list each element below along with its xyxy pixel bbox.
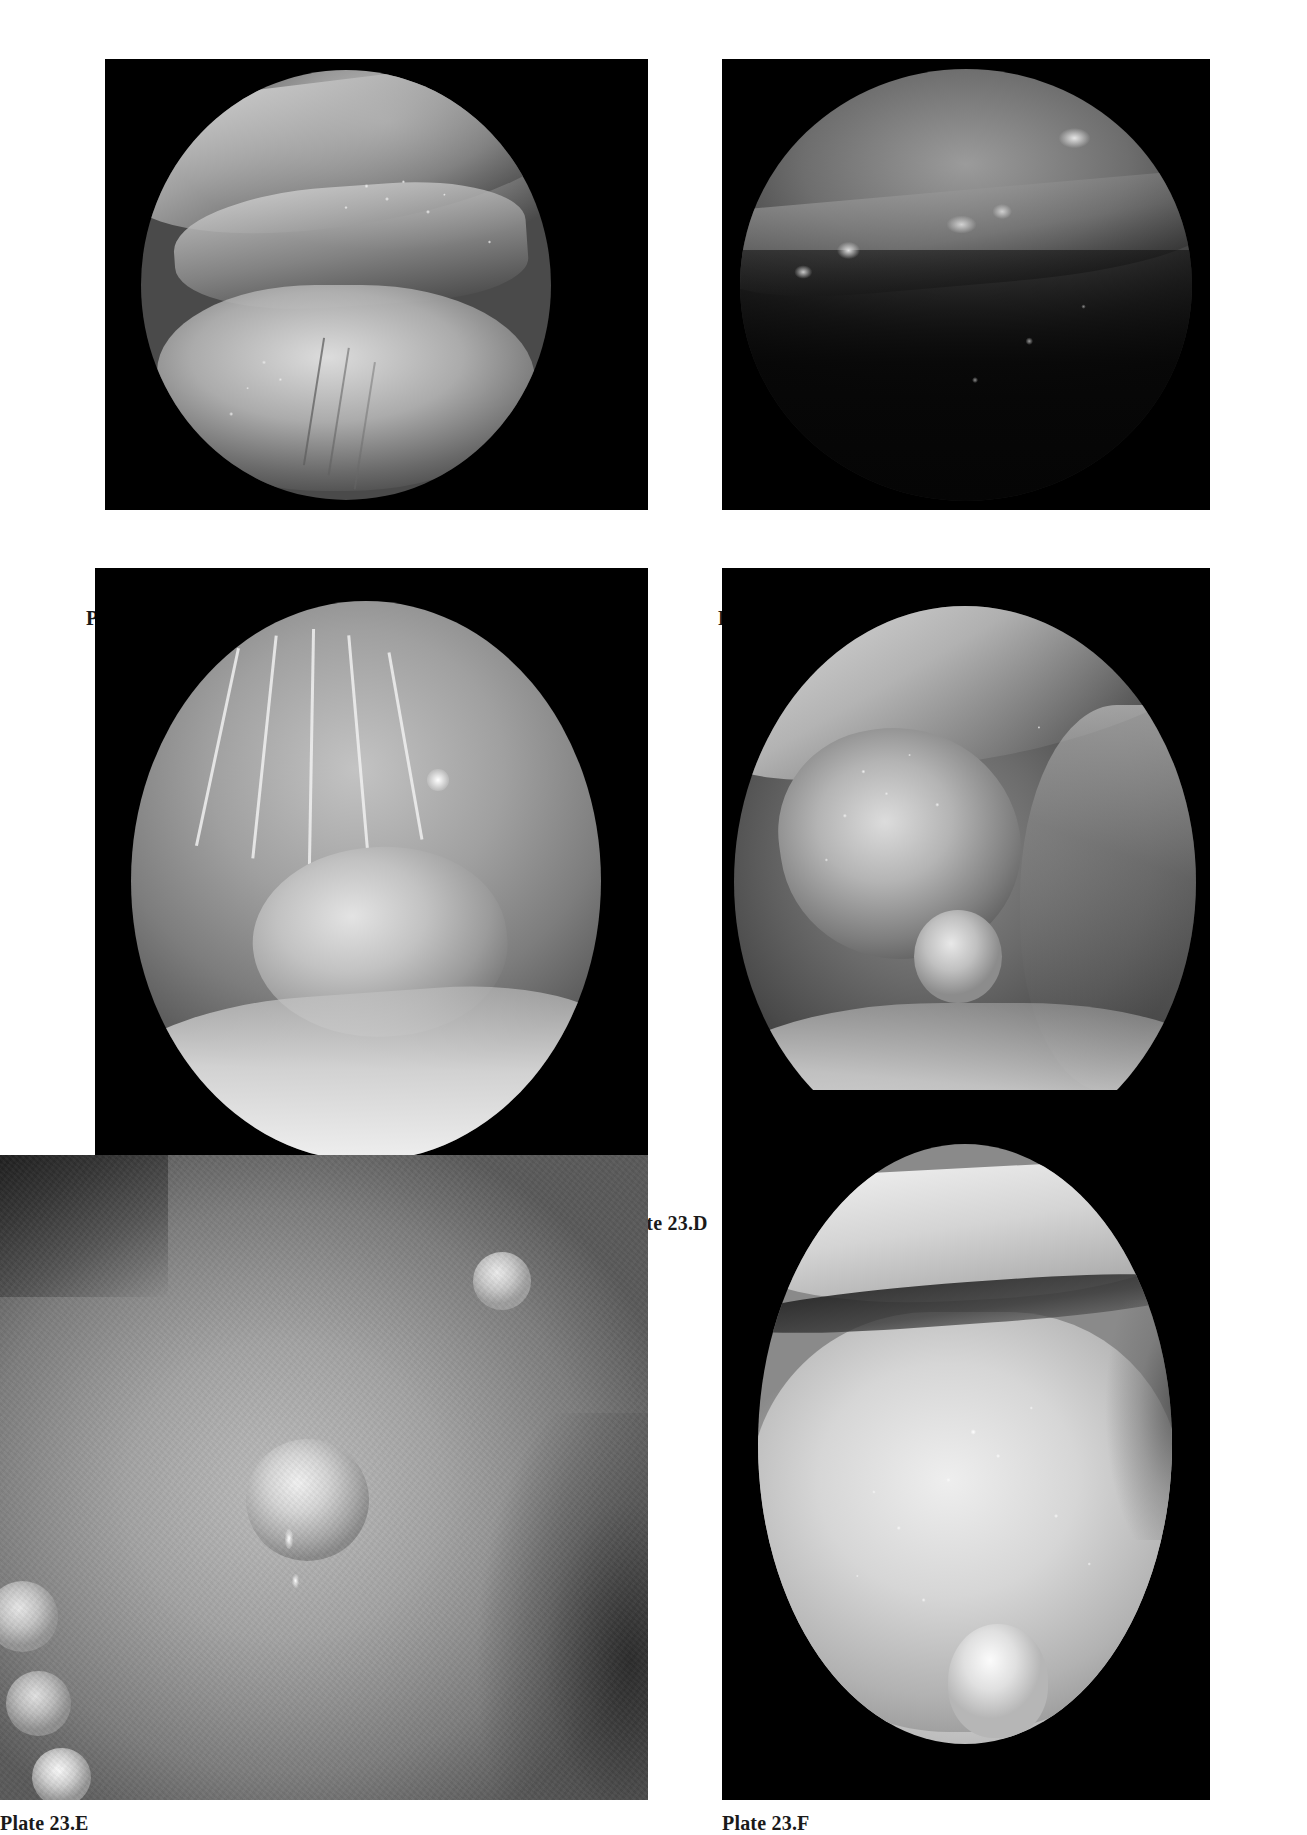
plate-frame-b bbox=[722, 59, 1210, 510]
nodule-spots bbox=[734, 606, 1196, 1158]
plate-image-e bbox=[0, 1155, 648, 1800]
nodule-spots bbox=[758, 1144, 1172, 1744]
plate-frame-f bbox=[722, 1090, 1210, 1800]
plate-image-a bbox=[141, 70, 551, 500]
plaque-spots bbox=[740, 69, 1192, 501]
plate-image-b bbox=[740, 69, 1192, 501]
plate-frame-e bbox=[0, 1155, 648, 1800]
strand-1 bbox=[195, 648, 240, 846]
lower-fold bbox=[131, 975, 601, 1161]
plate-image-c bbox=[131, 601, 601, 1161]
film-grain bbox=[0, 1155, 648, 1800]
plate-image-f bbox=[758, 1144, 1172, 1744]
plate-frame-c bbox=[95, 568, 648, 1195]
strand-2 bbox=[251, 635, 277, 858]
strand-3 bbox=[308, 629, 315, 864]
plate-image-d bbox=[734, 606, 1196, 1158]
strand-5 bbox=[387, 653, 423, 841]
plate-frame-a bbox=[105, 59, 648, 510]
strand-4 bbox=[347, 635, 370, 858]
nodule-spots bbox=[141, 70, 551, 500]
specular-highlight bbox=[427, 769, 449, 791]
plate-caption-f: Plate 23.F bbox=[722, 1812, 810, 1835]
plate-caption-e: Plate 23.E bbox=[0, 1812, 89, 1835]
plate-page: Plate 23.A Plate 23.B Plate 23.C bbox=[0, 0, 1307, 1835]
